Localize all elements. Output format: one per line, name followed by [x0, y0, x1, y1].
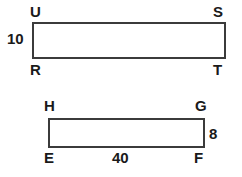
vertex-label-g: G	[195, 98, 207, 113]
vertex-label-u: U	[30, 4, 41, 19]
vertex-label-f: F	[194, 150, 203, 165]
lower-rectangle-height-label: 8	[209, 126, 217, 141]
vertex-label-e: E	[44, 150, 54, 165]
vertex-label-s: S	[213, 4, 223, 19]
figure-canvas: U S R T 10 H G E F 8 40	[0, 0, 242, 177]
upper-rectangle-height-label: 10	[7, 31, 24, 46]
lower-rectangle	[48, 118, 205, 148]
vertex-label-r: R	[30, 62, 41, 77]
lower-rectangle-width-label: 40	[112, 150, 129, 165]
vertex-label-h: H	[44, 98, 55, 113]
upper-rectangle	[32, 22, 226, 59]
vertex-label-t: T	[213, 62, 222, 77]
